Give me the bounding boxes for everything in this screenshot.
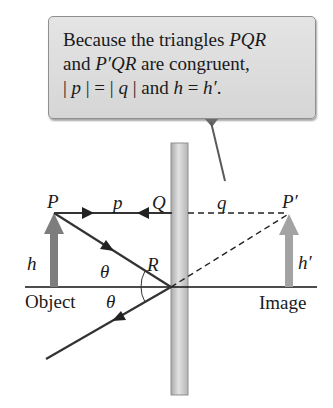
label-object: Object [25, 292, 76, 311]
reflected-arrowhead-icon [112, 311, 126, 321]
object-arrow [44, 213, 64, 287]
angle-arc-reflected [141, 287, 145, 302]
callout-pointer [205, 119, 225, 181]
label-p-point: P [47, 192, 59, 211]
label-theta-incident: θ [100, 262, 109, 281]
label-q-point: Q [152, 193, 166, 212]
label-p-distance: p [113, 193, 123, 212]
angle-arc-incident [141, 271, 145, 287]
image-arrow [279, 214, 299, 287]
label-h: h [27, 254, 37, 273]
label-h-prime: h′ [298, 253, 312, 272]
label-theta-reflected: θ [106, 292, 115, 311]
label-p-prime: P′ [282, 192, 298, 211]
label-image: Image [259, 293, 306, 312]
incident-arrowhead-icon [100, 240, 114, 251]
arrowhead-right-icon [82, 207, 94, 219]
plane-mirror [171, 143, 188, 395]
arrowhead-left-icon [137, 207, 149, 219]
label-r-point: R [147, 255, 159, 274]
label-q-distance: q [217, 193, 227, 212]
